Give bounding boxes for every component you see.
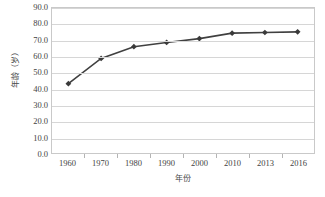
gridline [52, 106, 314, 107]
line-chart: 年龄（岁） 0.010.020.030.040.050.060.070.080.… [0, 0, 325, 197]
x-tick-mark [282, 154, 283, 158]
y-tick-label: 50.0 [14, 68, 48, 77]
series-line-life-expectancy [52, 8, 314, 153]
gridline [52, 122, 314, 123]
gridline [52, 57, 314, 58]
x-tick-mark [183, 154, 184, 158]
x-axis-title: 年份 [51, 172, 315, 183]
y-tick-label: 0.0 [14, 150, 48, 159]
y-axis-tick-labels: 0.010.020.030.040.050.060.070.080.090.0 [14, 0, 48, 197]
x-tick-mark [150, 154, 151, 158]
data-point-marker [295, 29, 301, 35]
gridline [52, 139, 314, 140]
x-tick-mark [216, 154, 217, 158]
x-tick-mark [117, 154, 118, 158]
data-point-marker [229, 30, 235, 36]
gridline [52, 90, 314, 91]
plot-area [51, 7, 315, 154]
x-tick-label: 2016 [277, 158, 321, 168]
y-tick-label: 10.0 [14, 133, 48, 142]
y-tick-label: 70.0 [14, 35, 48, 44]
data-point-marker [131, 44, 137, 50]
y-tick-label: 90.0 [14, 3, 48, 12]
x-tick-mark [84, 154, 85, 158]
y-tick-label: 30.0 [14, 101, 48, 110]
gridline [52, 41, 314, 42]
y-tick-label: 80.0 [14, 19, 48, 28]
gridline [52, 24, 314, 25]
y-tick-label: 20.0 [14, 117, 48, 126]
gridline [52, 73, 314, 74]
gridline [52, 8, 314, 9]
y-tick-label: 60.0 [14, 52, 48, 61]
x-tick-mark [249, 154, 250, 158]
data-point-marker [262, 30, 268, 36]
y-tick-label: 40.0 [14, 84, 48, 93]
x-axis-tick-labels: 19601970198019902000201020132016 [51, 158, 315, 172]
